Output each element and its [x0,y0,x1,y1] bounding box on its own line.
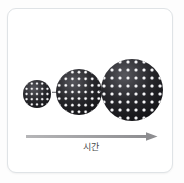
sphere-stage-large [101,59,163,121]
sphere-stage-medium [56,69,102,115]
time-axis-label: 시간 [8,141,174,153]
sphere-stage-small [21,78,53,110]
figure-card: 시간 [7,8,173,173]
figure-canvas: 시간 [0,0,184,183]
diagram-stage: 시간 [8,9,174,174]
